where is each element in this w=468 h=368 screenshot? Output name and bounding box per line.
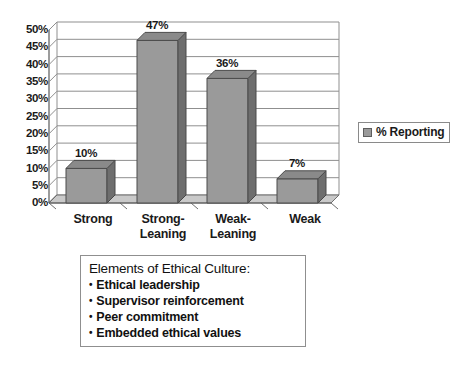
- bar-strong-leaning[interactable]: [137, 32, 186, 203]
- x-tick-weak-leaning-line2: Leaning: [195, 227, 271, 242]
- y-tick-35: 35%: [4, 76, 48, 87]
- x-tick-strong-leaning-line2: Leaning: [125, 227, 201, 242]
- bar-strong[interactable]: [66, 160, 115, 203]
- x-tick-strong-leaning: Strong- Leaning: [125, 212, 201, 242]
- y-tick-25: 25%: [4, 111, 48, 122]
- y-axis-tick-labels: 50% 45% 40% 35% 30% 25% 20% 15% 10% 5% 0…: [0, 0, 48, 368]
- y-axis-depth-wall: [49, 22, 57, 203]
- bar-weak-leaning[interactable]: [207, 70, 256, 203]
- y-tick-10: 10%: [4, 163, 48, 174]
- callout-textbox: Elements of Ethical Culture: Ethical lea…: [80, 255, 306, 347]
- x-tick-weak: Weak: [267, 212, 343, 227]
- y-tick-0: 0%: [4, 197, 48, 208]
- callout-list-item: Supervisor reinforcement: [89, 293, 299, 309]
- data-label-weak: 7%: [274, 157, 320, 169]
- callout-list-item: Embedded ethical values: [89, 325, 299, 341]
- x-tick-weak-leaning-line1: Weak-: [195, 212, 271, 227]
- x-tick-weak-leaning: Weak- Leaning: [195, 212, 271, 242]
- callout-title: Elements of Ethical Culture:: [89, 260, 299, 277]
- callout-list-item: Ethical leadership: [89, 277, 299, 293]
- y-tick-15: 15%: [4, 145, 48, 156]
- callout-list: Ethical leadership Supervisor reinforcem…: [89, 277, 299, 341]
- y-tick-30: 30%: [4, 93, 48, 104]
- callout-list-item: Peer commitment: [89, 309, 299, 325]
- legend-swatch-icon: [363, 128, 372, 137]
- y-tick-40: 40%: [4, 59, 48, 70]
- chart-legend[interactable]: % Reporting: [358, 122, 450, 143]
- x-tick-weak-line1: Weak: [267, 212, 343, 227]
- y-tick-50: 50%: [4, 24, 48, 35]
- y-tick-20: 20%: [4, 128, 48, 139]
- x-tick-strong-leaning-line1: Strong-: [125, 212, 201, 227]
- chart-container: 50% 45% 40% 35% 30% 25% 20% 15% 10% 5% 0…: [0, 0, 468, 368]
- x-tick-strong-line1: Strong: [55, 212, 131, 227]
- data-label-strong-leaning: 47%: [134, 19, 180, 31]
- legend-item-label: % Reporting: [376, 125, 444, 139]
- data-label-strong: 10%: [63, 147, 109, 159]
- x-tick-strong: Strong: [55, 212, 131, 227]
- data-label-weak-leaning: 36%: [204, 57, 250, 69]
- y-tick-5: 5%: [4, 180, 48, 191]
- bar-weak[interactable]: [277, 171, 326, 203]
- y-tick-45: 45%: [4, 41, 48, 52]
